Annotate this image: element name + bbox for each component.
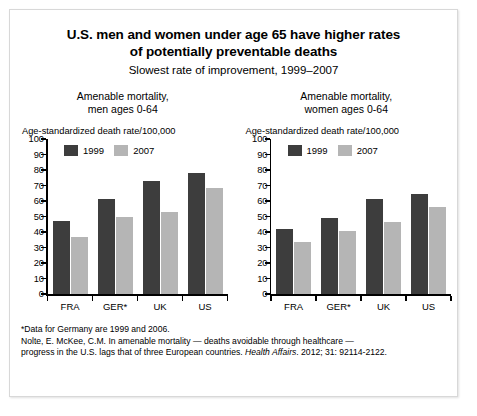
citation-journal-name: Health Affairs <box>245 347 296 357</box>
x-tick-label: US <box>183 301 228 312</box>
legend-women: 1999 2007 <box>288 145 378 156</box>
y-tick-mark <box>41 278 46 279</box>
legend-men: 1999 2007 <box>64 145 154 156</box>
y-tick-mark <box>41 200 46 201</box>
panel-title-men: Amenable mortality, men ages 0-64 <box>18 90 228 118</box>
legend-swatch-1999-icon <box>288 145 302 156</box>
y-tick-mark <box>41 247 46 248</box>
x-tick-mark <box>93 296 138 301</box>
y-axis-caption-women: Age-standardized death rate/100,000 <box>242 126 452 136</box>
y-axis-caption-men: Age-standardized death rate/100,000 <box>18 126 228 136</box>
bar-1999 <box>98 199 115 294</box>
x-tick-label: FRA <box>48 301 93 312</box>
x-axis-labels-women: FRAGER*UKUS <box>271 301 451 312</box>
panel-title-women: Amenable mortality, women ages 0-64 <box>242 90 452 118</box>
citation-text-start: progress in the U.S. lags that of three … <box>21 347 245 357</box>
panel-title-women-line-1: Amenable mortality, <box>242 90 452 103</box>
x-tick-label: GER* <box>316 301 361 312</box>
bar-group <box>271 139 316 294</box>
x-tick-mark <box>138 296 183 301</box>
bar-1999 <box>53 221 70 294</box>
y-tick-mark <box>265 262 270 263</box>
citation-text-end: . 2012; 31: 92114-2122. <box>296 347 387 357</box>
legend-item-1999-men: 1999 <box>64 145 104 156</box>
bar-2007 <box>116 217 133 294</box>
y-tick-mark <box>265 293 270 294</box>
charts-container: Amenable mortality, men ages 0-64 Age-st… <box>10 90 457 314</box>
x-ticks-men <box>48 296 228 301</box>
footnote-citation-line-1: Nolte, E. McKee, C.M. In amenable mortal… <box>21 336 449 348</box>
x-tick-label: GER* <box>93 301 138 312</box>
y-tick-mark <box>265 278 270 279</box>
y-tick-mark <box>41 262 46 263</box>
legend-label-2007-women: 2007 <box>357 145 378 156</box>
legend-label-1999-women: 1999 <box>307 145 328 156</box>
bar-group <box>138 139 183 294</box>
legend-label-2007-men: 2007 <box>133 145 154 156</box>
x-tick-mark <box>48 296 93 301</box>
bar-2007 <box>161 212 178 294</box>
bar-2007 <box>206 188 223 294</box>
figure-title-line-2: of potentially preventable deaths <box>10 43 457 60</box>
bar-group <box>361 139 406 294</box>
bar-2007 <box>339 231 356 294</box>
y-tick-mark <box>265 216 270 217</box>
x-tick-label: UK <box>138 301 183 312</box>
legend-item-2007-men: 2007 <box>114 145 154 156</box>
plot-men: 1999 2007 0102030405060708090100 FRAGER*… <box>18 139 228 314</box>
x-ticks-women <box>271 296 451 301</box>
y-tick-mark <box>41 169 46 170</box>
y-tick-mark <box>41 231 46 232</box>
y-tick-mark <box>265 169 270 170</box>
figure-subtitle: Slowest rate of improvement, 1999–2007 <box>10 62 457 78</box>
panel-title-women-line-2: women ages 0-64 <box>242 103 452 116</box>
bar-2007 <box>294 242 311 294</box>
legend-swatch-2007-icon <box>338 145 352 156</box>
chart-panel-men: Amenable mortality, men ages 0-64 Age-st… <box>10 90 234 314</box>
y-tick-mark <box>265 231 270 232</box>
x-tick-label: UK <box>361 301 406 312</box>
panel-title-men-line-1: Amenable mortality, <box>18 90 228 103</box>
legend-swatch-2007-icon <box>114 145 128 156</box>
bar-1999 <box>143 181 160 294</box>
y-tick-mark <box>265 185 270 186</box>
legend-swatch-1999-icon <box>64 145 78 156</box>
y-tick-mark <box>265 154 270 155</box>
y-tick-mark <box>265 138 270 139</box>
footnote-germany-note: *Data for Germany are 1999 and 2006. <box>21 324 449 336</box>
y-tick-mark <box>265 200 270 201</box>
legend-item-2007-women: 2007 <box>338 145 378 156</box>
bars-area-men <box>48 139 228 294</box>
x-tick-label: US <box>406 301 451 312</box>
bar-group <box>183 139 228 294</box>
y-tick-mark <box>41 185 46 186</box>
bar-1999 <box>188 173 205 294</box>
chart-panel-women: Amenable mortality, women ages 0-64 Age-… <box>234 90 458 314</box>
panel-title-men-line-2: men ages 0-64 <box>18 103 228 116</box>
bar-2007 <box>429 207 446 294</box>
y-tick-mark <box>265 247 270 248</box>
bar-1999 <box>321 218 338 294</box>
plot-women: 1999 2007 0102030405060708090100 FRAGER*… <box>242 139 452 314</box>
title-block: U.S. men and women under age 65 have hig… <box>10 10 457 78</box>
bar-group <box>406 139 451 294</box>
x-tick-label: FRA <box>271 301 316 312</box>
x-tick-mark <box>406 296 451 301</box>
x-tick-mark <box>361 296 406 301</box>
y-tick-mark <box>41 154 46 155</box>
bar-1999 <box>411 194 428 294</box>
bar-2007 <box>384 222 401 294</box>
bar-1999 <box>366 199 383 294</box>
x-tick-mark <box>316 296 361 301</box>
x-axis-labels-men: FRAGER*UKUS <box>48 301 228 312</box>
footnotes: *Data for Germany are 1999 and 2006. Nol… <box>10 324 457 359</box>
bar-group <box>316 139 361 294</box>
figure-title-line-1: U.S. men and women under age 65 have hig… <box>10 26 457 43</box>
legend-label-1999-men: 1999 <box>83 145 104 156</box>
bars-area-women <box>271 139 451 294</box>
x-tick-mark <box>271 296 316 301</box>
bar-2007 <box>71 237 88 294</box>
legend-item-1999-women: 1999 <box>288 145 328 156</box>
x-tick-mark <box>183 296 228 301</box>
y-tick-mark <box>41 293 46 294</box>
